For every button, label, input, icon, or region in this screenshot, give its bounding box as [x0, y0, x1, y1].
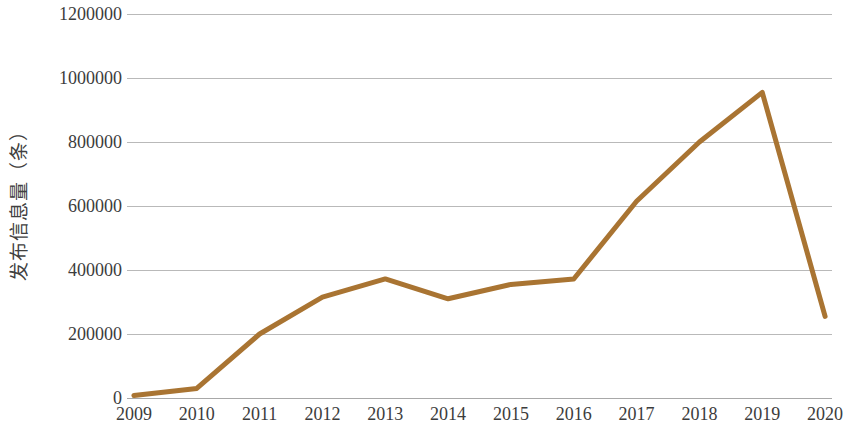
- plot-area: [127, 14, 832, 398]
- y-axis-tick-labels: 020000040000060000080000010000001200000: [30, 0, 122, 410]
- y-tick-label: 800000: [30, 132, 122, 153]
- series-line-layer: [127, 14, 832, 398]
- x-tick-label: 2020: [785, 404, 847, 425]
- y-tick-label: 1000000: [30, 68, 122, 89]
- x-axis-tick-labels: 2009201020112012201320142015201620172018…: [127, 404, 832, 433]
- y-tick-label: 1200000: [30, 4, 122, 25]
- y-tick-label: 400000: [30, 260, 122, 281]
- y-axis-title: 发布信息量（条）: [0, 0, 34, 400]
- series-line-published-info: [134, 92, 825, 395]
- y-axis-title-text: 发布信息量（条）: [4, 120, 31, 280]
- y-tick-label: 600000: [30, 196, 122, 217]
- y-tick-label: 200000: [30, 324, 122, 345]
- axis-baseline: [127, 398, 832, 399]
